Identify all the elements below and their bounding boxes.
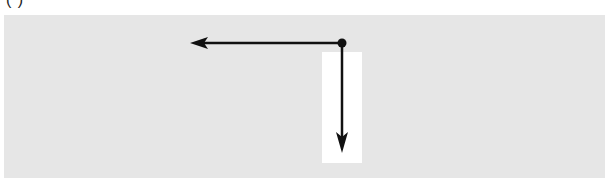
vector-arrows [0,0,608,180]
down-arrow-icon [336,43,348,153]
origin-dot-icon [338,39,347,48]
left-arrow-icon [190,37,342,49]
